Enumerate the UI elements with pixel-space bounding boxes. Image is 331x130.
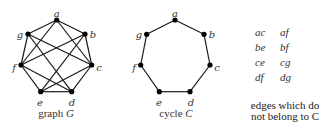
edge-df (21, 65, 72, 92)
vertex-label-e: e (37, 97, 43, 108)
vertex-c (89, 62, 94, 67)
edge-ga (147, 20, 175, 34)
vertex-g (144, 32, 149, 37)
graph-g: abcdefg (11, 8, 102, 108)
vertex-label-d: d (188, 97, 194, 108)
edge-ab (175, 20, 204, 34)
edge-list-row: ce cg (255, 55, 305, 70)
vertex-b (82, 31, 87, 36)
vertex-c (207, 62, 212, 67)
vertex-label-b: b (90, 29, 96, 40)
edge-bf (21, 34, 85, 65)
edge-list-caption-line2: not belong to C (243, 111, 327, 122)
vertex-label-c: c (96, 62, 102, 73)
edge-label: be (255, 40, 280, 55)
edge-cd (72, 65, 92, 92)
edge-ef (141, 65, 160, 92)
vertex-label-a: a (54, 8, 60, 19)
non-cycle-edge-list: ac af be bf ce cg df dg (255, 25, 305, 85)
vertex-g (25, 31, 30, 36)
vertex-d (69, 89, 74, 94)
edge-label: dg (280, 70, 305, 85)
edge-list-caption: edges which do not belong to C (243, 100, 327, 122)
vertex-f (18, 62, 23, 67)
vertex-e (157, 89, 162, 94)
edge-label: ac (255, 25, 280, 40)
edge-label: ce (255, 55, 280, 70)
vertex-label-b: b (209, 29, 215, 40)
edge-ce (41, 65, 92, 92)
edge-ab (57, 20, 85, 34)
edge-list-row: be bf (255, 40, 305, 55)
edge-ga (28, 20, 57, 34)
vertex-label-d: d (69, 97, 75, 108)
vertex-label-c: c (214, 62, 220, 73)
edge-label: cg (280, 55, 305, 70)
vertex-label-f: f (131, 62, 138, 73)
edge-list-row: df dg (255, 70, 305, 85)
vertex-d (187, 89, 192, 94)
vertex-e (38, 89, 43, 94)
vertex-label-f: f (11, 62, 18, 73)
vertex-label-a: a (172, 8, 178, 19)
graph-g-caption: graph G (38, 107, 74, 119)
cycle-c-caption: cycle C (159, 107, 193, 119)
vertex-label-g: g (136, 29, 142, 40)
edge-ef (21, 65, 41, 92)
edge-label: df (255, 70, 280, 85)
vertex-label-e: e (156, 97, 162, 108)
edge-label: bf (280, 40, 305, 55)
vertex-f (138, 62, 143, 67)
edge-label: af (280, 25, 305, 40)
vertex-b (201, 32, 206, 37)
cycle-c: abcdefg (131, 8, 220, 108)
edge-list-row: ac af (255, 25, 305, 40)
edge-cd (190, 65, 210, 92)
vertex-label-g: g (17, 29, 23, 40)
